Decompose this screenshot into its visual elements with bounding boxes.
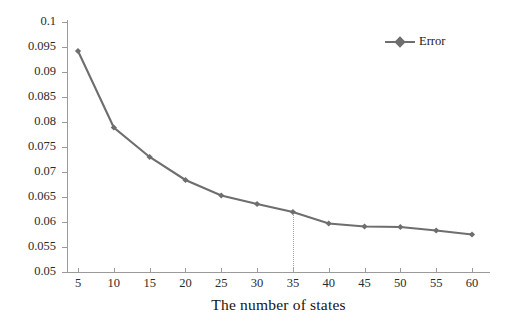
data-point-marker — [469, 231, 475, 237]
chart-figure: 0.050.0550.060.0650.070.0750.080.0850.09… — [0, 0, 505, 330]
legend-label-error: Error — [419, 35, 445, 48]
series-marker-group — [75, 48, 475, 238]
x-axis-title: The number of states — [67, 296, 490, 314]
data-point-marker — [361, 223, 367, 229]
data-point-marker — [326, 220, 332, 226]
series-layer — [0, 0, 505, 330]
legend: Error — [385, 35, 445, 48]
series-line-error — [78, 51, 472, 235]
data-point-marker — [254, 201, 260, 207]
data-point-marker — [218, 192, 224, 198]
data-point-marker — [397, 224, 403, 230]
data-point-marker — [290, 209, 296, 215]
legend-symbol-error-icon — [385, 37, 415, 47]
data-point-marker — [433, 227, 439, 233]
